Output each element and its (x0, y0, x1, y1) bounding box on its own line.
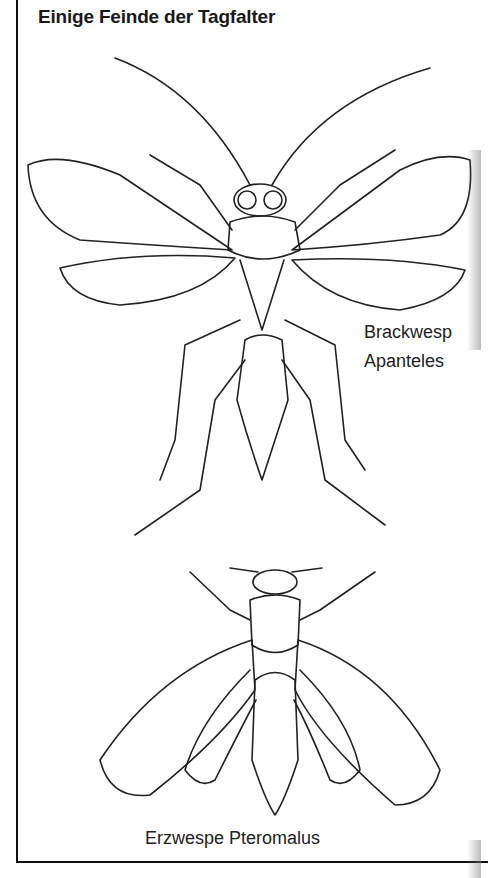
label-erzwespe-pteromalus: Erzwespe Pteromalus (145, 828, 320, 849)
chalcid-wasp-drawing (100, 568, 440, 815)
page-edge-shadow (467, 150, 481, 350)
label-brackwespe: Brackwesp (364, 322, 452, 343)
braconid-wasp-drawing (28, 58, 471, 535)
label-apanteles: Apanteles (364, 351, 444, 372)
page-edge-shadow-bottom (467, 840, 481, 878)
